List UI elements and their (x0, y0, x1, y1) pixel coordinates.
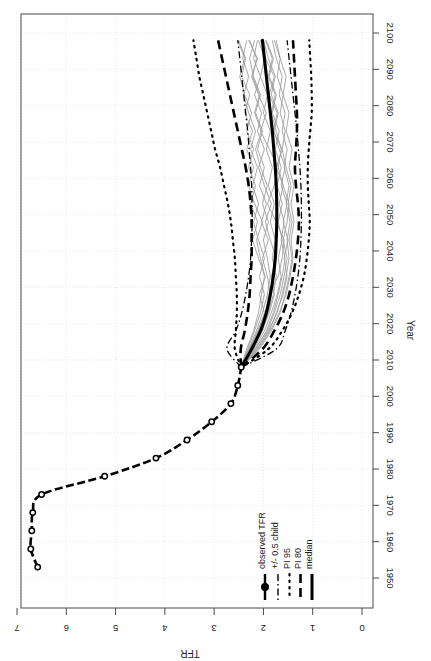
observed-tfr-point-5 (102, 474, 107, 479)
tfr-tick-label: 3 (211, 623, 216, 634)
year-tick-label: 2090 (385, 59, 396, 80)
year-tick-label: 1960 (385, 531, 396, 552)
year-tick-label: 2050 (385, 204, 396, 225)
observed-tfr-point-1 (28, 546, 33, 551)
year-tick-label: 1950 (385, 567, 396, 588)
year-tick-label: 2040 (385, 240, 396, 261)
observed-tfr-point-8 (209, 419, 214, 424)
tfr-tick-label: 0 (359, 623, 364, 634)
observed-tfr-point-2 (29, 528, 34, 533)
year-tick-label: 2000 (385, 386, 396, 407)
observed-tfr-point-11 (239, 365, 244, 370)
observed-tfr-point-7 (184, 437, 189, 442)
tfr-tick-label: 2 (261, 623, 266, 634)
tfr-tick-label: 5 (113, 623, 118, 634)
year-tick-label: 1970 (385, 495, 396, 516)
observed-tfr-point-4 (39, 492, 44, 497)
tfr-tick-label: 6 (64, 623, 69, 634)
legend-label: observed TFR (257, 512, 267, 569)
y-axis-label: TFR (180, 648, 199, 659)
tfr-tick-label: 4 (162, 623, 167, 634)
year-tick-label: 2060 (385, 168, 396, 189)
tfr-tick-label: 7 (14, 623, 19, 634)
year-tick-label: 2080 (385, 95, 396, 116)
observed-tfr-point-6 (153, 455, 158, 460)
legend-key-point (262, 584, 269, 591)
legend-label: PI 80 (293, 548, 303, 569)
legend-label: PI 95 (282, 548, 292, 569)
year-tick-label: 2030 (385, 277, 396, 298)
legend-label: median (304, 539, 314, 569)
year-tick-label: 1990 (385, 422, 396, 443)
observed-tfr-point-10 (235, 383, 240, 388)
observed-tfr-point-3 (30, 510, 35, 515)
year-tick-label: 2010 (385, 349, 396, 370)
year-tick-label: 1980 (385, 458, 396, 479)
x-axis-label: Year (405, 320, 416, 341)
observed-tfr-point-9 (228, 401, 233, 406)
year-tick-label: 2020 (385, 313, 396, 334)
observed-tfr-point-0 (35, 564, 40, 569)
tfr-projection-chart: 1950196019701980199020002010202020302040… (0, 0, 431, 661)
year-tick-label: 2100 (385, 22, 396, 43)
year-tick-label: 2070 (385, 131, 396, 152)
tfr-tick-label: 1 (310, 623, 315, 634)
legend-label: +/- 0.5 child (270, 522, 280, 569)
chart-background (0, 0, 431, 661)
chart-root: 1950196019701980199020002010202020302040… (0, 0, 431, 661)
